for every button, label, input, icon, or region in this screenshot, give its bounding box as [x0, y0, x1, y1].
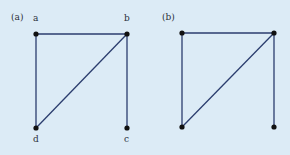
graph-figure: (a) a b c d (b) — [0, 0, 290, 155]
graph-node-b — [124, 31, 129, 36]
node-label-c: c — [124, 135, 129, 144]
graph-panel-a — [33, 31, 129, 130]
graph-panel-b — [179, 30, 276, 129]
graph-canvas — [0, 0, 290, 155]
graph-node-br — [271, 124, 276, 129]
node-label-d: d — [33, 135, 39, 144]
graph-node-tl — [179, 30, 184, 35]
node-label-b: b — [124, 14, 130, 23]
graph-edge-tr-bl — [182, 33, 274, 127]
graph-node-d — [33, 125, 38, 130]
graph-node-bl — [179, 124, 184, 129]
graph-node-a — [33, 31, 38, 36]
graph-node-tr — [271, 30, 276, 35]
graph-edge-b-d — [36, 34, 127, 128]
panel-a-caption: (a) — [11, 13, 23, 22]
node-label-a: a — [33, 14, 38, 23]
graph-node-c — [124, 125, 129, 130]
panel-b-caption: (b) — [162, 13, 175, 22]
